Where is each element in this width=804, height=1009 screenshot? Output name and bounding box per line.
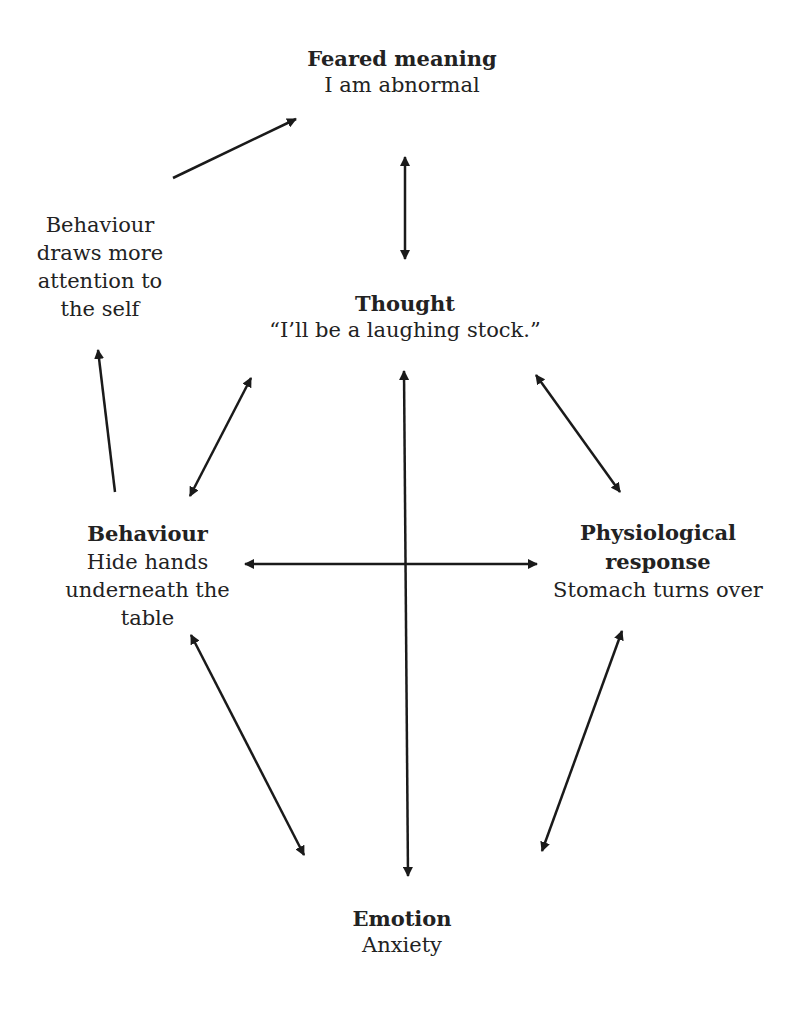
node-emotion: Emotion Anxiety — [302, 905, 502, 959]
arrows-layer — [0, 0, 804, 1009]
node-title: Behaviour — [40, 520, 255, 548]
arrow-physiological-emotion — [542, 631, 622, 851]
arrow-attention-to-feared — [173, 119, 296, 178]
node-body: I am abnormal — [277, 72, 527, 99]
arrow-behaviour-emotion — [191, 635, 304, 855]
arrow-behaviour-to-attention — [98, 350, 115, 492]
arrow-thought-physiological — [536, 375, 620, 492]
node-behaviour: Behaviour Hide hands underneath the tabl… — [40, 520, 255, 632]
node-title: Feared meaning — [277, 45, 527, 72]
arrow-thought-emotion — [404, 371, 408, 876]
arrow-behaviour-thought — [190, 378, 251, 496]
node-title: Emotion — [302, 905, 502, 932]
node-title: Physiological response — [538, 518, 778, 576]
node-body: “I’ll be a laughing stock.” — [255, 317, 555, 344]
node-body: Hide hands underneath the table — [40, 548, 255, 632]
node-physiological: Physiological response Stomach turns ove… — [538, 518, 778, 605]
node-title: Thought — [255, 290, 555, 317]
node-thought: Thought “I’ll be a laughing stock.” — [255, 290, 555, 344]
node-body: Behaviour draws more attention to the se… — [20, 211, 180, 323]
node-body: Stomach turns over — [538, 576, 778, 605]
node-attention: Behaviour draws more attention to the se… — [20, 211, 180, 323]
node-feared-meaning: Feared meaning I am abnormal — [277, 45, 527, 99]
node-body: Anxiety — [302, 932, 502, 959]
